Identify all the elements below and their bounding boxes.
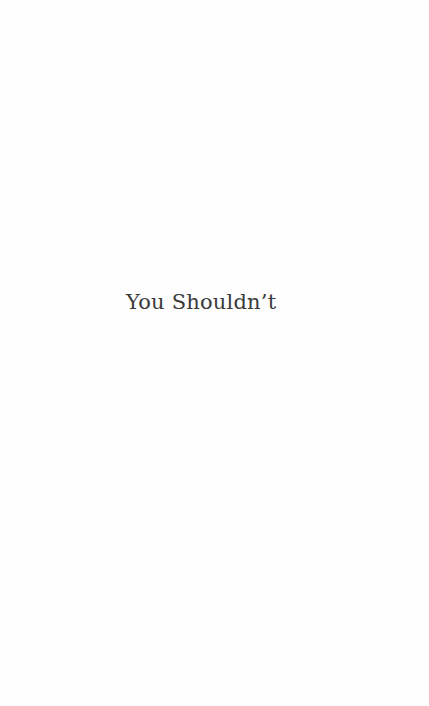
book-page: You Shouldn’t [0, 0, 429, 706]
page-title: You Shouldn’t [126, 292, 276, 313]
